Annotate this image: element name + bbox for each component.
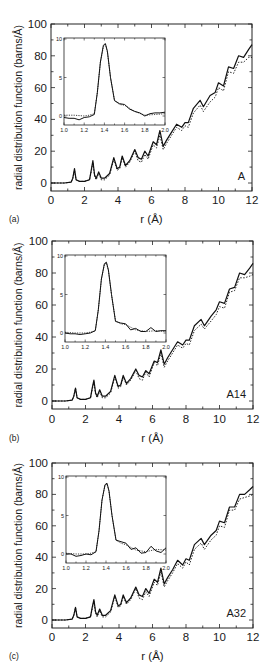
inset-x-tick-label: 1.0 (61, 344, 69, 350)
y-tick-label: 60 (34, 82, 47, 94)
y-tick-label: 0 (41, 177, 47, 189)
y-axis-label: radial distribution function (barns/Å) (12, 463, 24, 628)
x-tick-label: 12 (247, 631, 260, 643)
inset-y-tick-label: 0 (59, 113, 62, 119)
panel-label: (b) (9, 433, 20, 443)
x-axis-label: r (Å) (140, 213, 163, 225)
inset-x-tick-label: 2.0 (162, 565, 170, 571)
inset-y-tick-label: 10 (58, 474, 64, 480)
x-tick-label: 4 (116, 413, 123, 425)
y-tick-label: 40 (34, 113, 47, 125)
inset-x-tick-label: 2.0 (161, 127, 169, 133)
inset-frame (66, 476, 166, 563)
x-tick-label: 6 (148, 194, 154, 206)
inset-y-tick-label: 0 (61, 551, 64, 557)
inset-x-tick-label: 1.4 (101, 127, 109, 133)
y-tick-label: 40 (35, 331, 48, 343)
y-tick-label: 80 (35, 488, 48, 500)
x-tick-label: 2 (81, 194, 87, 206)
x-tick-label: 2 (82, 631, 88, 643)
y-axis-label: radial distribution function (barns/Å) (12, 25, 24, 190)
panel-label: (c) (9, 651, 19, 661)
inset-x-tick-label: 1.4 (102, 344, 110, 350)
inset-plot: 1.01.21.41.61.82.00510 (56, 36, 169, 133)
x-tick-label: 0 (49, 413, 55, 425)
y-tick-label: 60 (35, 299, 48, 311)
sample-label: A14 (226, 388, 246, 400)
inset-x-tick-label: 1.6 (122, 344, 130, 350)
x-tick-label: 8 (183, 413, 189, 425)
x-tick-label: 4 (116, 631, 123, 643)
x-tick-label: 2 (82, 413, 88, 425)
x-tick-label: 8 (182, 194, 188, 206)
x-axis-label: r (Å) (141, 432, 164, 444)
inset-plot: 1.01.21.41.61.82.00510 (57, 253, 170, 350)
x-tick-label: 6 (149, 413, 155, 425)
inset-x-tick-label: 1.8 (141, 127, 149, 133)
x-tick-label: 12 (246, 194, 259, 206)
inset-x-tick-label: 1.2 (82, 565, 90, 571)
inset-x-tick-label: 1.2 (80, 127, 88, 133)
inset-y-tick-label: 5 (60, 292, 63, 298)
x-axis-label: r (Å) (141, 650, 164, 662)
inset-x-tick-label: 1.4 (102, 565, 110, 571)
sample-label: A32 (226, 607, 246, 619)
inset-x-tick-label: 1.0 (62, 565, 70, 571)
y-tick-label: 20 (35, 363, 48, 375)
inset-y-tick-label: 10 (57, 253, 63, 259)
x-tick-label: 6 (149, 631, 155, 643)
y-tick-label: 20 (34, 145, 47, 157)
panel-a: 024681012020406080100radial distribution… (9, 18, 258, 225)
inset-x-tick-label: 1.6 (122, 565, 130, 571)
inset-y-tick-label: 5 (61, 513, 64, 519)
inset-y-tick-label: 5 (59, 75, 62, 81)
inset-frame (64, 38, 165, 125)
y-tick-label: 40 (35, 551, 48, 563)
figure: 024681012020406080100radial distribution… (0, 0, 271, 666)
x-tick-label: 0 (49, 631, 55, 643)
x-tick-label: 10 (213, 631, 226, 643)
inset-x-tick-label: 1.8 (142, 565, 150, 571)
inset-x-tick-label: 1.2 (81, 344, 89, 350)
x-tick-label: 10 (213, 413, 226, 425)
inset-plot: 1.01.21.41.61.82.00510 (58, 474, 170, 571)
x-tick-label: 10 (212, 194, 225, 206)
y-tick-label: 60 (35, 520, 48, 532)
inset-x-tick-label: 1.6 (121, 127, 129, 133)
inset-y-tick-label: 10 (56, 36, 62, 42)
sample-label: A (238, 170, 246, 182)
panel-c: 024681012020406080100radial distribution… (9, 457, 259, 662)
y-tick-label: 100 (29, 457, 48, 469)
panel-b: 024681012020406080100radial distribution… (9, 235, 259, 444)
y-tick-label: 0 (42, 395, 48, 407)
x-tick-label: 4 (115, 194, 122, 206)
y-tick-label: 100 (28, 18, 47, 30)
x-tick-label: 12 (247, 413, 260, 425)
inset-x-tick-label: 1.8 (142, 344, 150, 350)
y-tick-label: 20 (35, 583, 48, 595)
inset-y-tick-label: 0 (60, 330, 63, 336)
y-tick-label: 80 (34, 50, 47, 62)
y-tick-label: 80 (35, 267, 48, 279)
x-tick-label: 0 (48, 194, 54, 206)
inset-x-tick-label: 2.0 (162, 344, 170, 350)
x-tick-label: 8 (183, 631, 189, 643)
inset-x-tick-label: 1.0 (60, 127, 68, 133)
inset-frame (65, 255, 166, 342)
y-tick-label: 0 (42, 614, 48, 626)
panel-label: (a) (9, 214, 20, 224)
y-tick-label: 100 (29, 235, 48, 247)
y-axis-label: radial distribution function (barns/Å) (12, 242, 24, 407)
